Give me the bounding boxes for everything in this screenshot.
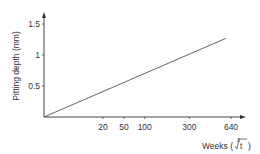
svg-text:): ): [248, 141, 251, 151]
x-tick-label: 640: [224, 122, 238, 132]
x-tick-label: 20: [98, 122, 108, 132]
y-tick-label: 1.5: [28, 19, 40, 29]
series-line: [44, 38, 226, 117]
x-tick-label: 100: [138, 122, 152, 132]
y-axis-label: Pitting depth (mm): [11, 31, 21, 101]
svg-text:t: t: [240, 141, 243, 151]
cube-root-symbol: 3 t ): [235, 137, 251, 151]
x-axis-arrow-icon: [240, 115, 246, 119]
y-ticks: 0.511.5: [28, 19, 44, 91]
x-ticks: 2050100300640: [98, 117, 238, 132]
pitting-depth-chart: 0.511.5 2050100300640 Pitting depth (mm)…: [0, 0, 260, 154]
y-tick-label: 1: [35, 50, 40, 60]
y-axis-arrow-icon: [42, 12, 46, 18]
x-tick-label: 300: [182, 122, 196, 132]
y-tick-label: 0.5: [28, 81, 40, 91]
chart-svg: 0.511.5 2050100300640 Pitting depth (mm)…: [0, 0, 260, 154]
x-axis-label: Weeks (: [202, 141, 233, 151]
x-tick-label: 50: [119, 122, 129, 132]
